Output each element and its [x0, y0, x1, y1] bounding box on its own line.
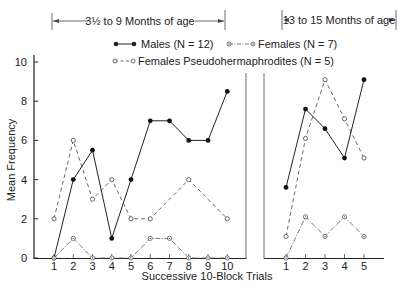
y-tick-label: 10 — [15, 56, 27, 68]
x-tick-label: 8 — [186, 260, 192, 272]
legend-pseudohermaphrodites: Females Pseudohermaphrodites (N = 5) — [113, 55, 334, 67]
y-tick-label: 8 — [21, 95, 27, 107]
legend-males: Males (N = 12) — [114, 38, 214, 50]
legend-females: Females (N = 7) — [227, 38, 337, 50]
age-label-right: 13 to 15 Months of age — [283, 14, 396, 26]
y-tick-label: 4 — [21, 174, 27, 186]
y-tick-label: 0 — [21, 252, 27, 264]
x-tick-label: 2 — [70, 260, 76, 272]
x-tick-label: 4 — [109, 260, 115, 272]
age-label-left: 3½ to 9 Months of age — [85, 15, 194, 27]
x-tick-label: 5 — [128, 260, 134, 272]
svg-text:Males (N = 12): Males (N = 12) — [141, 38, 213, 50]
series-males-panel-1 — [52, 89, 230, 260]
chart: 3½ to 9 Months of age 13 to 15 Months of… — [0, 0, 404, 287]
svg-text:Females (N = 7): Females (N = 7) — [258, 38, 337, 50]
data-series — [52, 77, 367, 260]
x-tick-label: 6 — [147, 260, 153, 272]
age-annotation-left: 3½ to 9 Months of age — [52, 10, 225, 30]
series-females-panel-1 — [52, 236, 229, 260]
x-tick-label: 10 — [221, 260, 233, 272]
x-tick-label: 4 — [341, 260, 347, 272]
series-pseudohermaphrodites-panel-2 — [284, 78, 366, 239]
left-panel-frame — [34, 55, 246, 259]
y-tick-label: 6 — [21, 134, 27, 146]
right-panel-frame — [264, 73, 384, 259]
x-tick-label: 5 — [361, 260, 367, 272]
series-males-panel-2 — [284, 77, 367, 190]
legend: Males (N = 12) Females (N = 7) Females P… — [113, 38, 337, 67]
x-tick-label: 3 — [322, 260, 328, 272]
x-tick-label: 2 — [302, 260, 308, 272]
age-annotation-right: 13 to 15 Months of age — [282, 10, 396, 30]
y-axis-label: Mean Frequency — [5, 118, 17, 201]
y-tick-label: 2 — [21, 213, 27, 225]
svg-text:Females Pseudohermaphrodites (: Females Pseudohermaphrodites (N = 5) — [138, 55, 334, 67]
x-tick-label: 1 — [283, 260, 289, 272]
x-tick-label: 9 — [205, 260, 211, 272]
series-females-panel-2 — [284, 215, 366, 260]
x-tick-label: 7 — [166, 260, 172, 272]
x-tick-label: 1 — [51, 260, 57, 272]
x-tick-label: 3 — [89, 260, 95, 272]
